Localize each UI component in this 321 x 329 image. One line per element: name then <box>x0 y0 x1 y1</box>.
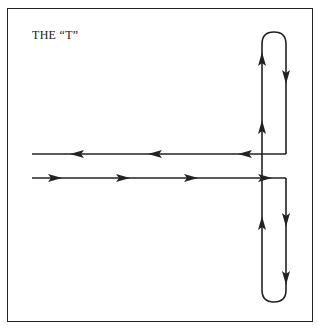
lower-loop-path <box>262 178 286 302</box>
arrowheads <box>48 52 290 285</box>
upper-loop-path <box>262 32 286 178</box>
t-pattern-diagram <box>0 0 321 329</box>
